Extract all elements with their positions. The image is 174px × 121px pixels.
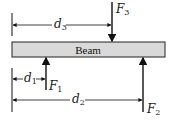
- force-f1-arrow: F1: [46, 58, 62, 94]
- svg-text:d2: d2: [72, 92, 85, 107]
- beam: Beam: [12, 42, 165, 57]
- svg-text:d1: d1: [24, 71, 37, 86]
- beam-force-diagram: Beam d3 F3 F1 d1 F2 d2: [0, 0, 174, 121]
- dimension-d3: d3: [13, 17, 111, 32]
- dimension-d2: d2: [13, 92, 142, 107]
- force-f3-arrow: F3: [112, 2, 129, 41]
- svg-text:F3: F3: [115, 2, 129, 17]
- dimension-d1: d1: [13, 71, 45, 86]
- svg-text:F2: F2: [146, 102, 160, 117]
- svg-text:d3: d3: [54, 17, 67, 32]
- beam-label: Beam: [75, 44, 101, 56]
- svg-text:F1: F1: [48, 79, 62, 94]
- force-f2-arrow: F2: [143, 58, 160, 117]
